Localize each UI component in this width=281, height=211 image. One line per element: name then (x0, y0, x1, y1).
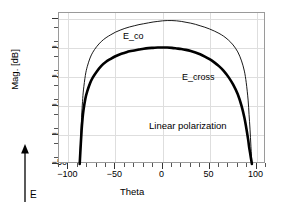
e-field-label: E (30, 189, 37, 200)
annotation-linear-polarization: Linear polarization (149, 121, 227, 131)
x-tick-label: 0 (159, 170, 164, 179)
x-tick-label: 100 (248, 170, 263, 179)
x-tick-label: −100 (57, 170, 77, 179)
series-line-e-co (80, 21, 252, 164)
curves-layer (59, 13, 266, 164)
y-axis-title: Mag. [dB] (9, 30, 20, 110)
annotation-e-co: E_co (123, 31, 144, 41)
plot-area: E_co E_cross Linear polarization (58, 12, 265, 163)
series-line-e-cross (80, 48, 252, 164)
figure-root: 0−10−20−30−40−50 −100−50050100 E_co E_cr… (0, 0, 281, 211)
x-tick-label: 50 (204, 170, 214, 179)
x-tick-label: −50 (107, 170, 122, 179)
annotation-e-cross: E_cross (182, 72, 215, 82)
x-axis-title: Theta (120, 186, 144, 197)
